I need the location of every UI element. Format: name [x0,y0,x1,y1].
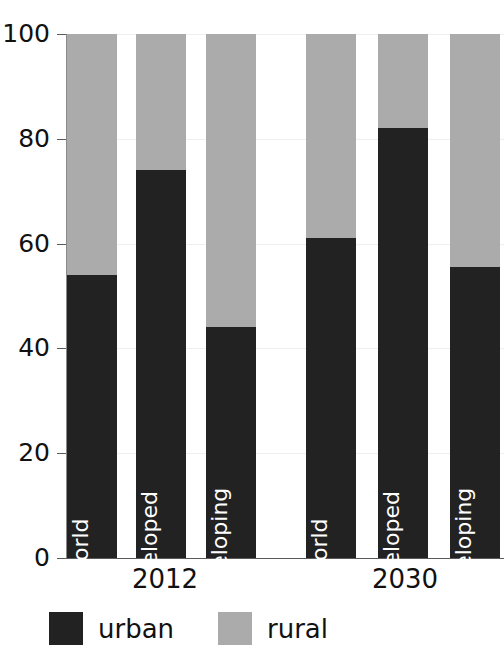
y-tick-mark [57,139,66,140]
bar-2012-developed[interactable]: Developed [136,34,186,558]
chart-title-clipped: Urban and rural population [0,0,504,14]
chart-title-text: Urban and rural population [0,0,504,2]
y-tick-label: 40 [0,335,50,360]
gridline [67,244,504,245]
bar-2030-developed[interactable]: Developed [378,34,428,558]
stacked-bar-chart: Urban and rural population 100806040200 … [0,0,504,657]
y-tick-label: 20 [0,440,50,465]
bar-segment-rural [378,34,428,128]
legend-item-urban[interactable]: urban [49,612,174,645]
bar-label: World [309,518,331,581]
legend-swatch-urban [49,612,83,645]
bar-segment-urban [67,275,117,558]
x-axis-line [66,558,504,559]
gridline [67,453,504,454]
gridline [67,34,504,35]
bar-2030-developing[interactable]: Developing [450,34,500,558]
y-tick-label: 60 [0,231,50,256]
y-tick-label: 100 [0,21,50,46]
bar-2012-world[interactable]: World [67,34,117,558]
bar-2030-world[interactable]: World [306,34,356,558]
legend-item-rural[interactable]: rural [218,612,328,645]
y-tick-mark [57,244,66,245]
legend-swatch-rural [218,612,252,645]
bar-2012-developing[interactable]: Developing [206,34,256,558]
y-tick-mark [57,558,66,559]
y-tick-mark [57,453,66,454]
bar-segment-rural [206,34,256,327]
y-tick-label: 0 [0,545,50,570]
bar-segment-rural [306,34,356,238]
y-tick-label: 80 [0,126,50,151]
legend-label: rural [267,614,328,644]
gridline [67,348,504,349]
bar-segment-rural [136,34,186,170]
gridline [67,139,504,140]
group-label-2012: 2012 [110,564,220,594]
group-label-2030: 2030 [350,564,460,594]
bar-segment-rural [450,34,500,267]
legend-label: urban [98,614,174,644]
bar-segment-rural [67,34,117,275]
bar-label: World [70,518,92,581]
bar-segment-urban [306,238,356,558]
y-tick-mark [57,348,66,349]
y-tick-mark [57,34,66,35]
